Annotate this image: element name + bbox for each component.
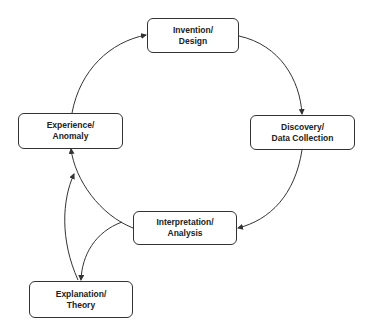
- node-interpretation-analysis: Interpretation/ Analysis: [133, 211, 237, 245]
- edge-explanation-to-experience: [65, 174, 78, 280]
- node-label-line1: Interpretation/: [156, 217, 213, 228]
- node-discovery-data-collection: Discovery/ Data Collection: [250, 115, 355, 150]
- edge-invention-to-discovery: [239, 36, 302, 114]
- edge-discovery-to-interpretation: [238, 150, 302, 228]
- node-label-line2: Analysis: [156, 228, 213, 239]
- node-label-line2: Data Collection: [272, 133, 334, 144]
- node-label-line1: Explanation/: [56, 289, 107, 300]
- node-experience-anomaly: Experience/ Anomaly: [18, 113, 123, 149]
- node-label-line2: Anomaly: [47, 131, 95, 142]
- edge-interpretation-to-explanation: [81, 222, 122, 280]
- node-invention-design: Invention/ Design: [147, 18, 239, 53]
- node-label-line1: Experience/: [47, 120, 95, 131]
- node-label-line2: Theory: [56, 300, 107, 311]
- edge-interpretation-to-experience: [71, 149, 133, 228]
- edge-experience-to-invention: [72, 35, 146, 113]
- node-label-line1: Invention/: [173, 25, 213, 36]
- node-label-line2: Design: [173, 36, 213, 47]
- node-label-line1: Discovery/: [272, 122, 334, 133]
- node-explanation-theory: Explanation/ Theory: [29, 281, 133, 318]
